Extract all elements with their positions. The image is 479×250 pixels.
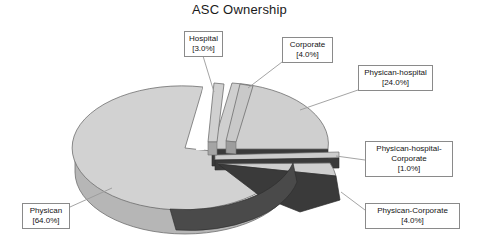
pie-chart-figure: ASC Ownership xyxy=(0,0,479,250)
callout-corporate: Corporate [4.0%] xyxy=(282,37,333,63)
leader-line-hospital xyxy=(203,56,214,92)
callout-physican-hospital-corporate: Physican-hospital- Corporate [1.0%] xyxy=(365,141,453,177)
callout-corporate-pct: [4.0%] xyxy=(286,50,329,60)
callout-physican-hospital-corporate-name: Physican-hospital- xyxy=(369,144,449,154)
leader-line-phys-corp xyxy=(341,192,365,210)
callout-physican-hospital-corporate-name2: Corporate xyxy=(369,154,449,164)
callout-physican-corporate: Physican-Corporate [4.0%] xyxy=(365,203,460,229)
callout-physican-pct: [64.0%] xyxy=(26,216,66,226)
callout-hospital-pct: [3.0%] xyxy=(188,44,219,54)
callout-hospital-name: Hospital xyxy=(188,34,219,44)
callout-physican-hospital-pct: [24.0%] xyxy=(362,78,429,88)
callout-physican-name: Physican xyxy=(26,206,66,216)
leader-line-phys-hosp xyxy=(300,90,358,110)
leader-line-corporate xyxy=(248,62,282,88)
callout-corporate-name: Corporate xyxy=(286,40,329,50)
slice-hospital-side xyxy=(208,142,217,155)
callout-physican-hospital: Physican-hospital [24.0%] xyxy=(358,65,433,91)
callout-physican: Physican [64.0%] xyxy=(22,203,70,229)
callout-physican-corporate-name: Physican-Corporate xyxy=(369,206,456,216)
callout-physican-hospital-name: Physican-hospital xyxy=(362,68,429,78)
callout-hospital: Hospital [3.0%] xyxy=(184,31,223,57)
leader-line-phys-hosp-corp xyxy=(336,156,365,160)
callout-physican-corporate-pct: [4.0%] xyxy=(369,216,456,226)
callout-physican-hospital-corporate-pct: [1.0%] xyxy=(369,164,449,174)
slice-corporate-side xyxy=(226,141,236,154)
